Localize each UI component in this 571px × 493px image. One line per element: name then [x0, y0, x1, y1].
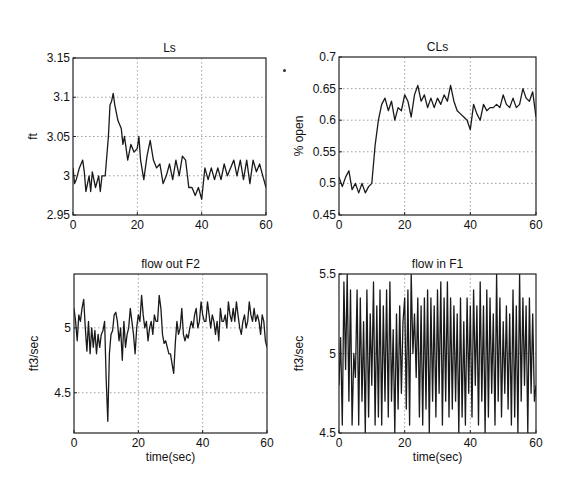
y-tick-label: 0.6 [319, 113, 336, 127]
x-tick-label: 60 [260, 436, 274, 450]
x-tick-label: 60 [529, 436, 543, 450]
subplot-ls: 02040602.9533.053.13.15Lsft [26, 41, 273, 232]
x-tick-label: 40 [196, 436, 210, 450]
subplot-grid: 02040602.9533.053.13.15Lsft02040600.450.… [0, 0, 571, 493]
series-line [74, 295, 267, 421]
y-tick-label: 3.15 [47, 51, 71, 65]
x-tick-label: 0 [336, 218, 343, 232]
y-axis-label: ft [26, 133, 40, 140]
y-axis-label: ft3/sec [27, 336, 41, 371]
figure: 02040602.9533.053.13.15Lsft02040600.450.… [0, 0, 571, 493]
subplot-flow-out-f2: 02040604.55flow out F2time(sec)ft3/sec [27, 257, 274, 464]
subplot-flow-in-f1: 02040604.555.5flow in F1time(sec)ft3/sec [292, 257, 543, 464]
x-tick-label: 20 [132, 436, 146, 450]
y-tick-label: 2.95 [47, 208, 71, 222]
y-tick-label: 5 [64, 321, 71, 335]
chart-title: CLs [427, 40, 448, 54]
y-tick-label: 3.1 [53, 90, 70, 104]
chart-title: flow out F2 [141, 257, 200, 271]
y-tick-label: 4.5 [54, 386, 71, 400]
x-tick-label: 40 [464, 436, 478, 450]
x-tick-label: 40 [195, 218, 209, 232]
stray-mark [283, 69, 286, 72]
x-axis-label: time(sec) [146, 450, 195, 464]
series-line [339, 85, 536, 192]
y-tick-label: 0.55 [313, 145, 337, 159]
axes-frame [339, 57, 536, 215]
chart-title: flow in F1 [412, 257, 464, 271]
y-tick-label: 4.5 [319, 426, 336, 440]
y-tick-label: 0.65 [313, 82, 337, 96]
y-tick-label: 0.7 [319, 50, 336, 64]
y-axis-label: % open [292, 116, 306, 157]
x-tick-label: 40 [464, 218, 478, 232]
y-tick-label: 3.05 [47, 130, 71, 144]
subplot-cls: 02040600.450.50.550.60.650.7CLs% open [292, 40, 543, 232]
y-axis-label: ft3/sec [292, 336, 306, 371]
y-tick-label: 0.5 [319, 176, 336, 190]
y-tick-label: 3 [63, 169, 70, 183]
chart-title: Ls [163, 41, 176, 55]
x-tick-label: 60 [259, 218, 273, 232]
x-axis-label: time(sec) [413, 450, 462, 464]
x-tick-label: 0 [70, 218, 77, 232]
y-tick-label: 5.5 [319, 267, 336, 281]
y-tick-label: 5 [329, 347, 336, 361]
x-tick-label: 20 [398, 218, 412, 232]
x-tick-label: 20 [398, 436, 412, 450]
series-line [73, 93, 266, 199]
x-tick-label: 20 [131, 218, 145, 232]
y-tick-label: 0.45 [313, 208, 337, 222]
series-line [339, 274, 536, 433]
x-tick-label: 0 [71, 436, 78, 450]
x-tick-label: 60 [529, 218, 543, 232]
x-tick-label: 0 [336, 436, 343, 450]
